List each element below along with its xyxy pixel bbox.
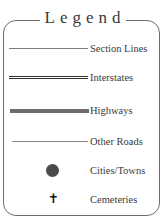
legend-item-other-roads: Other Roads xyxy=(0,135,164,149)
legend-item-highways: Highways xyxy=(0,104,164,118)
legend-item-section-lines: Section Lines xyxy=(0,42,164,56)
legend-item-interstates: Interstates xyxy=(0,71,164,85)
legend-label: Cities/Towns xyxy=(90,164,145,178)
section-line-icon xyxy=(9,48,88,49)
legend-label: Other Roads xyxy=(90,135,143,149)
interstate-line-icon xyxy=(9,76,88,77)
legend-label: Interstates xyxy=(90,71,133,85)
legend-label: Highways xyxy=(90,104,133,118)
cemetery-cross-icon: ✝ xyxy=(48,191,59,207)
city-dot-icon xyxy=(46,164,59,177)
legend-title: Legend xyxy=(40,8,126,28)
legend-item-cities: Cities/Towns xyxy=(0,164,164,178)
legend-item-cemeteries: ✝ Cemeteries xyxy=(0,193,164,207)
other-road-line-icon xyxy=(12,141,88,142)
legend-label: Cemeteries xyxy=(90,193,137,207)
legend-label: Section Lines xyxy=(90,42,147,56)
highway-line-icon xyxy=(10,109,89,113)
